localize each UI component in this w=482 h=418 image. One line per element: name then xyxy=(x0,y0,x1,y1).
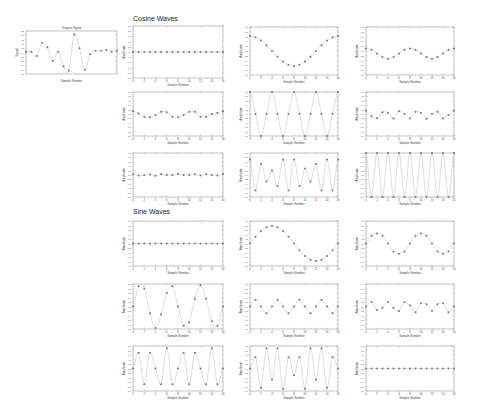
y-axis-label: Amplitude xyxy=(355,168,359,182)
y-tick-label: -0.5 xyxy=(20,56,25,58)
y-tick-label: -0.2 xyxy=(127,178,132,180)
y-tick-label: -0.8 xyxy=(244,131,249,133)
x-tick-label: 4 xyxy=(155,79,157,83)
data-point xyxy=(260,306,262,308)
data-point xyxy=(299,356,301,358)
x-tick-label: 16 xyxy=(337,392,340,396)
y-tick-label: 1.0 xyxy=(245,91,249,93)
data-point xyxy=(171,383,173,385)
y-tick-label: 0.8 xyxy=(128,288,132,290)
y-tick-label: 1.5 xyxy=(21,39,25,41)
data-point xyxy=(431,152,433,154)
x-tick-label: 12 xyxy=(199,79,202,83)
y-tick-label: 0.4 xyxy=(361,104,365,106)
x-tick-label: 12 xyxy=(431,330,434,334)
y-tick-label: 0.6 xyxy=(361,161,365,163)
y-tick-label: -0.4 xyxy=(244,377,249,379)
data-point xyxy=(321,44,323,46)
data-point xyxy=(188,243,190,245)
data-point xyxy=(222,110,224,112)
y-tick-label: 0.6 xyxy=(128,229,132,231)
data-point xyxy=(376,117,378,119)
y-tick-label: 0.8 xyxy=(361,350,365,352)
y-tick-label: -0.6 xyxy=(360,126,365,128)
y-tick-label: 0.6 xyxy=(245,229,249,231)
data-point xyxy=(371,115,373,117)
x-tick-label: 2 xyxy=(260,267,262,271)
data-point xyxy=(177,368,179,370)
data-point xyxy=(205,298,207,300)
data-point xyxy=(382,235,384,237)
data-point xyxy=(194,111,196,113)
data-point xyxy=(160,243,162,245)
data-point xyxy=(277,185,279,187)
data-point xyxy=(304,135,306,137)
data-point xyxy=(326,39,328,41)
y-tick-label: -0.4 xyxy=(127,252,132,254)
data-point xyxy=(282,306,284,308)
x-tick-label: 2 xyxy=(144,392,146,396)
x-axis-label: Sample Number xyxy=(399,80,421,84)
x-axis-label: Sample Number xyxy=(283,334,305,338)
y-tick-label: -0.4 xyxy=(244,315,249,317)
y-tick-label: -0.2 xyxy=(127,372,132,374)
y-tick-label: -0.2 xyxy=(244,372,249,374)
y-tick-label: 0.0 xyxy=(245,243,249,245)
x-tick-label: 12 xyxy=(315,137,318,141)
data-point xyxy=(337,368,339,370)
data-point xyxy=(453,243,455,245)
x-tick-label: 2 xyxy=(260,392,262,396)
data-point xyxy=(326,255,328,257)
x-axis-label: Sample Number xyxy=(283,80,305,84)
wave-plot: 1.00.80.60.40.20.0-0.2-0.4-0.6-0.8-1.002… xyxy=(122,283,225,338)
data-point xyxy=(393,368,395,370)
data-point xyxy=(205,116,207,118)
data-point xyxy=(371,235,373,237)
y-tick-label: 0.6 xyxy=(128,354,132,356)
y-tick-label: -0.8 xyxy=(127,324,132,326)
data-point xyxy=(200,284,202,286)
y-axis-label: Amplitude xyxy=(122,300,126,314)
x-tick-label: 16 xyxy=(337,267,340,271)
y-tick-label: -0.4 xyxy=(127,183,132,185)
data-point xyxy=(260,135,262,137)
y-tick-label: 0.2 xyxy=(128,109,132,111)
data-point xyxy=(288,312,290,314)
data-point xyxy=(149,174,151,176)
data-point xyxy=(138,113,140,115)
x-tick-label: 0 xyxy=(132,267,134,271)
data-point xyxy=(282,230,284,232)
data-point xyxy=(177,173,179,175)
data-point xyxy=(442,302,444,304)
data-point xyxy=(337,306,339,308)
data-point xyxy=(437,196,439,198)
y-tick-label: 0.6 xyxy=(361,229,365,231)
y-tick-label: -2.5 xyxy=(20,73,25,75)
x-tick-label: 2 xyxy=(376,330,378,334)
wave-plot: 1.00.80.60.40.20.0-0.2-0.4-0.6-0.8-1.002… xyxy=(355,220,456,275)
x-tick-label: 0 xyxy=(132,137,134,141)
wave-plot: 1.00.80.60.40.20.0-0.2-0.4-0.6-0.8-1.002… xyxy=(122,25,225,87)
data-point xyxy=(255,236,257,238)
x-tick-label: 4 xyxy=(155,267,157,271)
data-point xyxy=(288,113,290,115)
y-tick-label: -0.6 xyxy=(127,126,132,128)
y-tick-label: 0.4 xyxy=(361,234,365,236)
data-point xyxy=(132,243,134,245)
y-tick-label: 1.0 xyxy=(361,152,365,154)
y-tick-label: 0.0 xyxy=(361,174,365,176)
data-point xyxy=(205,243,207,245)
y-tick-label: -1.0 xyxy=(360,328,365,330)
y-tick-label: 0.0 xyxy=(128,243,132,245)
data-point xyxy=(282,61,284,63)
x-tick-label: 0 xyxy=(132,392,134,396)
y-axis-label: Amplitude xyxy=(239,168,243,182)
y-tick-label: 0.2 xyxy=(361,45,365,47)
y-tick-label: -0.4 xyxy=(360,377,365,379)
y-tick-label: -1.0 xyxy=(244,265,249,267)
data-point xyxy=(437,56,439,58)
y-tick-label: 0.0 xyxy=(361,50,365,52)
data-point xyxy=(315,163,317,165)
x-tick-label: 16 xyxy=(222,79,225,83)
data-point xyxy=(431,368,433,370)
